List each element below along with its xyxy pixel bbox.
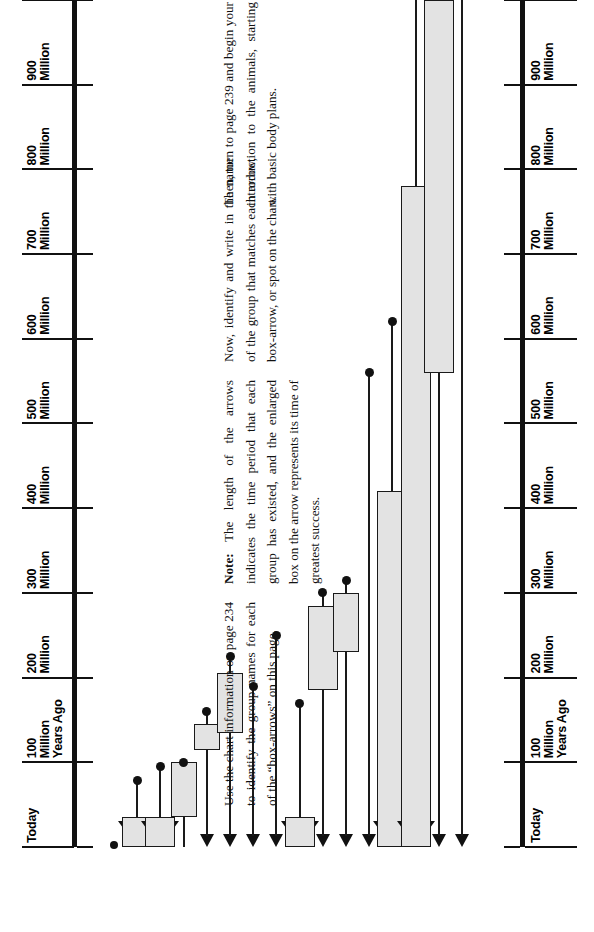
axis-tick-label: 200 Million [26,635,52,673]
axis-tick [22,592,74,594]
axis-tick-label: 600 Million [530,297,556,335]
axis-tick-minor [504,0,520,1]
axis-tick-label: 300 Million [530,551,556,589]
axis-tick-minor [77,84,93,86]
axis-tick-label: 500 Million [26,381,52,419]
timeline-axis-top: Today100 Million Years Ago200 Million300… [0,0,100,932]
axis-tick [525,507,577,509]
axis-tick [525,168,577,170]
arrow-end-dot [179,758,188,767]
arrow-end-dot [365,368,374,377]
axis-tick-label: 800 Million [530,127,556,165]
axis-tick-label: 400 Million [530,466,556,504]
timeline-axis-bottom: Today100 Million Years Ago200 Million300… [494,0,594,932]
axis-tick-minor [77,592,93,594]
peak-success-box [333,593,359,652]
arrow-end-dot [110,841,118,849]
axis-tick-minor [77,677,93,679]
axis-tick-label: 800 Million [26,127,52,165]
axis-tick [22,253,74,255]
instruction-paragraph-4: Then, turn to page 239 and begin your in… [218,2,283,206]
arrow-end-dot [318,588,327,597]
note-body: The length of the arrows indicates the t… [221,380,322,584]
axis-tick [525,846,577,848]
instruction-paragraph-2: Note: The length of the arrows indicates… [218,380,326,584]
instruction-paragraph-1: Use the chart information on page 234 to… [218,602,283,806]
axis-tick [525,253,577,255]
axis-tick [525,761,577,763]
axis-tick-label: 600 Million [26,297,52,335]
axis-tick-label: 400 Million [26,466,52,504]
axis-tick [22,338,74,340]
arrow-end-dot [133,776,142,785]
axis-tick-minor [504,677,520,679]
axis-tick [22,84,74,86]
axis-tick-minor [504,84,520,86]
worksheet-page: Today100 Million Years Ago200 Million300… [0,0,594,932]
axis-tick-label: 900 Million [530,43,556,81]
axis-tick-label: 700 Million [530,212,556,250]
axis-tick-minor [77,507,93,509]
axis-tick-minor [77,253,93,255]
peak-success-box [194,724,220,749]
peak-success-box [145,817,175,847]
arrow-end-dot [202,707,211,716]
axis-tick-minor [504,507,520,509]
axis-tick-label: 200 Million [530,635,556,673]
axis-tick [525,423,577,425]
axis-tick-minor [504,592,520,594]
page-rotator: Today100 Million Years Ago200 Million300… [0,0,594,932]
axis-tick [22,507,74,509]
axis-tick-minor [504,168,520,170]
arrow-end-dot [388,317,397,326]
axis-tick-minor [77,168,93,170]
axis-tick [525,592,577,594]
arrow-shaft [159,767,161,823]
axis-tick [22,168,74,170]
axis-tick-minor [77,0,93,1]
axis-tick-label: 100 Million Years Ago [26,699,65,758]
axis-tick-minor [77,846,93,848]
axis-tick-minor [504,253,520,255]
arrow-shaft [461,0,463,836]
axis-tick-label: 700 Million [26,212,52,250]
axis-tick [22,0,74,1]
axis-tick [525,677,577,679]
axis-tick [525,0,577,1]
peak-success-box [171,762,197,817]
axis-tick [22,846,74,848]
arrow-shaft [299,703,301,823]
peak-success-box [285,817,315,847]
axis-tick [525,84,577,86]
axis-tick [525,338,577,340]
axis-tick-minor [504,761,520,763]
arrow-shaft [368,373,370,836]
axis-tick-label: 500 Million [530,381,556,419]
axis-tick [22,677,74,679]
axis-tick-minor [77,338,93,340]
axis-tick-label: Today [26,808,39,843]
axis-tick [22,423,74,425]
axis-tick-minor [504,338,520,340]
arrow-end-dot [295,699,304,708]
axis-tick-minor [77,761,93,763]
axis-tick-label: 300 Million [26,551,52,589]
axis-tick-label: 100 Million Years Ago [530,699,569,758]
axis-tick [22,761,74,763]
arrow-end-dot [342,576,351,585]
axis-tick-minor [504,846,520,848]
peak-success-box [424,0,454,373]
axis-tick-minor [504,423,520,425]
note-lead: Note: [221,553,236,584]
arrow-end-dot [156,762,165,771]
axis-tick-label: Today [530,808,543,843]
axis-tick-label: 900 Million [26,43,52,81]
axis-tick-minor [77,423,93,425]
